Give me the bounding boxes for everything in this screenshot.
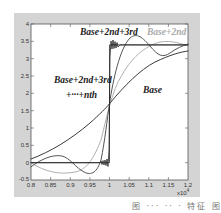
y-tick-label: 2.5 [21,73,30,79]
y-tick-label: 4 [26,21,30,27]
annotation-base-2nd: Base+2nd [146,27,186,37]
chart-plot: 4 3.5 3 2.5 2 1.5 1 0.5 0 -0.5 0.8 0.85 … [0,0,221,213]
x-tick-label: 0.85 [45,182,57,188]
annotation-base-2nd-3rd: Base+2nd+3rd [79,27,138,37]
y-tick-label: 1.5 [21,108,30,114]
figure-caption: 图 ··· ·· · 特征 图 [132,200,221,211]
y-tick-label: 0 [26,160,30,166]
x-tick-label: 1.15 [163,182,175,188]
y-tick-label: 2 [26,90,30,96]
y-tick-label: 3.5 [21,38,30,44]
x-tick-label: 1.1 [145,182,154,188]
annotation-base-nth-line2: +···+nth [66,90,97,100]
x-tick-label: 1.05 [123,182,135,188]
y-tick-label: 0.5 [21,142,30,148]
x-multiplier-label: x104 [177,188,190,196]
annotation-base-nth-line1: Base+2nd+3rd [53,75,112,85]
x-tick-label: 1 [108,182,112,188]
y-tick-label: 3 [26,56,30,62]
x-tick-label: 0.9 [66,182,75,188]
x-tick-label: 0.95 [84,182,96,188]
y-tick-label: 1 [26,125,30,131]
x-tick-label: 0.8 [27,182,36,188]
annotation-base: Base [142,85,163,95]
